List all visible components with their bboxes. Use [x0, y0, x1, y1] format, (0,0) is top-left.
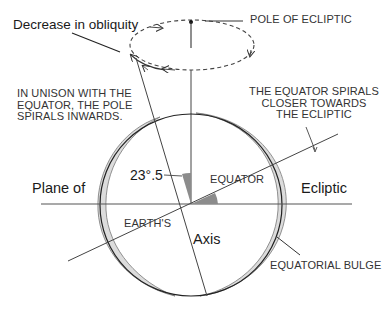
pole-spirals-line1: IN UNISON WITH THE	[17, 88, 132, 100]
obliquity-angle-label: 23°.5	[130, 168, 163, 183]
angle-leader	[164, 175, 182, 176]
axis-label: Axis	[193, 232, 220, 247]
equatorial-bulge-left	[98, 117, 175, 296]
earths-label: EARTH'S	[124, 218, 171, 230]
decrease-in-obliquity-label: Decrease in obliquity	[13, 18, 138, 32]
plane-of-label: Plane of	[32, 181, 85, 196]
pole-of-ecliptic-label: POLE OF ECLIPTIC	[250, 14, 352, 26]
equator-angle-wedge	[191, 193, 218, 204]
ecliptic-label: Ecliptic	[301, 181, 347, 196]
equator-spirals-text: THE EQUATOR SPIRALS CLOSER TOWARDS THE E…	[239, 86, 389, 121]
pole-spirals-line3: SPIRALS INWARDS.	[17, 111, 132, 123]
decrease-leader	[72, 33, 120, 52]
equatorial-bulge-label: EQUATORIAL BULGE	[270, 260, 381, 272]
equator-label: EQUATOR	[210, 174, 264, 186]
pole-spirals-text: IN UNISON WITH THE EQUATOR, THE POLE SPI…	[17, 88, 132, 123]
equator-spirals-line1: THE EQUATOR SPIRALS	[239, 86, 389, 98]
obliquity-angle-wedge	[182, 173, 191, 204]
bulge-leader	[277, 237, 300, 255]
precession-ellipse	[130, 20, 254, 70]
spiral-small-arrow	[143, 66, 148, 70]
equator-spirals-line3: THE ECLIPTIC	[239, 109, 389, 121]
spiral-inward-arrow	[131, 55, 165, 70]
